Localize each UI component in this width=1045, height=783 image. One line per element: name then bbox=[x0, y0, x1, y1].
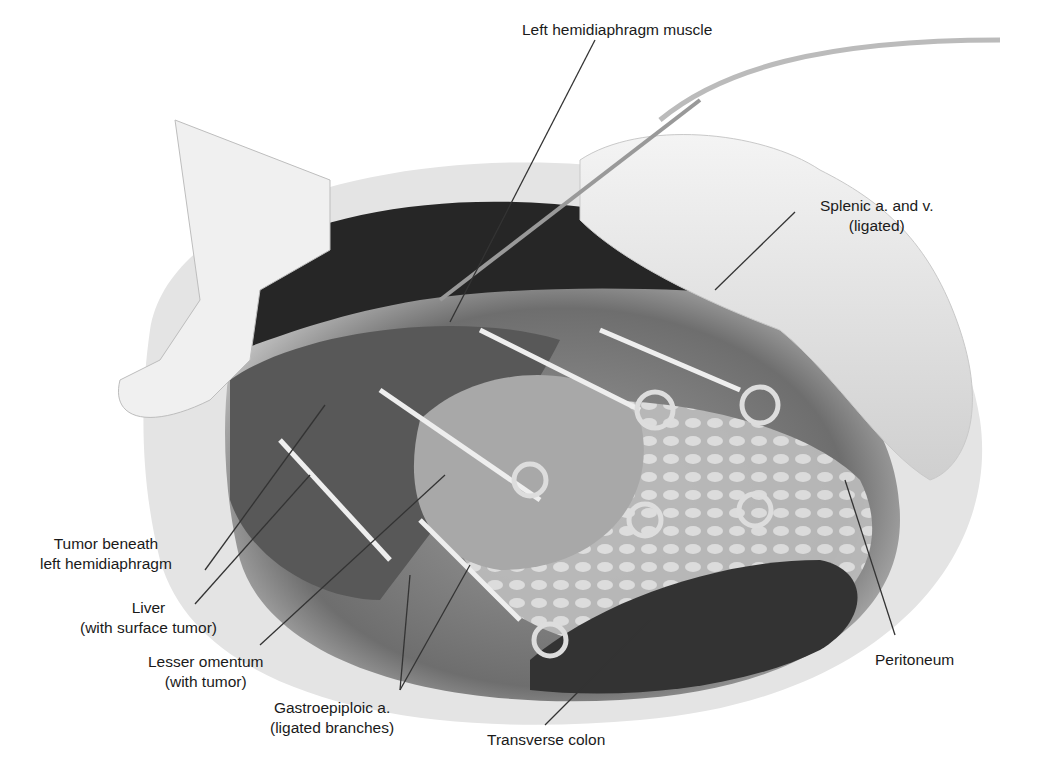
label-text: Lesser omentum bbox=[148, 652, 263, 672]
label-gastroepiploic: Gastroepiploic a. (ligated branches) bbox=[270, 698, 394, 738]
label-text: Splenic a. and v. bbox=[820, 196, 933, 216]
label-text: Liver bbox=[80, 598, 217, 618]
label-transverse-colon: Transverse colon bbox=[487, 730, 605, 750]
label-splenic-vessels: Splenic a. and v. (ligated) bbox=[820, 196, 933, 236]
label-text: (with tumor) bbox=[148, 672, 263, 692]
label-liver: Liver (with surface tumor) bbox=[80, 598, 217, 638]
label-text: (ligated branches) bbox=[270, 718, 394, 738]
label-text: Left hemidiaphragm muscle bbox=[522, 21, 712, 38]
label-text: left hemidiaphragm bbox=[40, 554, 172, 574]
label-text: (ligated) bbox=[820, 216, 933, 236]
label-text: Gastroepiploic a. bbox=[270, 698, 394, 718]
label-lesser-omentum: Lesser omentum (with tumor) bbox=[148, 652, 263, 692]
label-text: Peritoneum bbox=[875, 651, 954, 668]
label-peritoneum: Peritoneum bbox=[875, 650, 954, 670]
label-tumor-beneath-diaphragm: Tumor beneath left hemidiaphragm bbox=[40, 534, 172, 574]
label-text: Tumor beneath bbox=[40, 534, 172, 554]
label-text: (with surface tumor) bbox=[80, 618, 217, 638]
label-text: Transverse colon bbox=[487, 731, 605, 748]
label-left-hemidiaphragm-muscle: Left hemidiaphragm muscle bbox=[522, 20, 712, 40]
